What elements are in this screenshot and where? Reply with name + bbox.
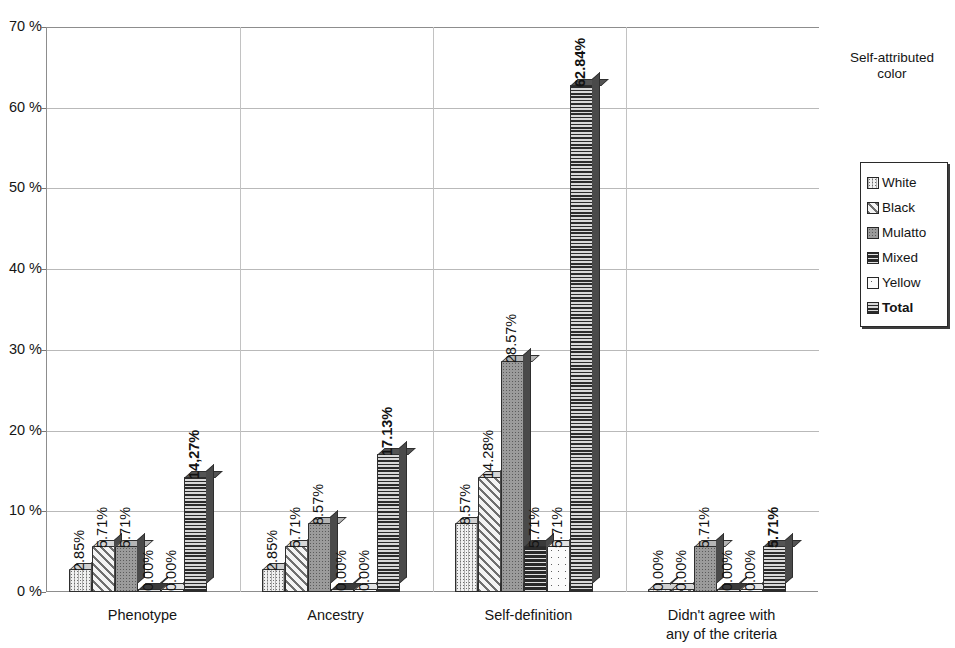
legend-item-label: Mulatto [882,225,926,240]
y-axis-tick-label: 0 % [0,584,42,598]
bar-value-label: 0.00% [357,549,371,590]
bar-value-label: 0.00% [720,549,734,590]
x-axis-category-label: Didn't agree withany of the criteria [625,606,818,644]
x-axis-category-label: Ancestry [239,606,432,625]
category-separator [626,27,627,592]
x-axis-category-label: Phenotype [46,606,239,625]
bar [524,546,547,592]
bar [763,546,786,592]
bar-side-face [399,441,407,584]
bar-value-label: 14,27% [187,430,201,479]
bar-value-label: 0.00% [651,549,665,590]
plot-area: 2.85%5.71%5.71%0.00%0.00%14,27%2.85%5.71… [46,27,818,592]
bar-value-label: 17.13% [380,407,394,456]
category-separator [433,27,434,592]
bar-value-label: 62.84% [573,38,587,87]
bar-value-label: 5.71% [766,507,780,548]
y-axis-tick-label: 10 % [0,503,42,517]
legend-item-mixed[interactable]: Mixed [867,245,947,270]
bar-side-face [592,72,600,584]
bar [308,523,331,592]
bar-value-label: 0.00% [164,549,178,590]
bar-value-label: 5.71% [697,507,711,548]
bar [184,477,207,592]
bar [262,569,285,592]
y-axis-tick-label: 50 % [0,180,42,194]
legend-item-label: Total [882,300,913,315]
bar-side-face [785,533,793,584]
bar [285,546,308,592]
bar-value-label: 8.57% [458,484,472,525]
legend-title: Self-attributed color [836,50,948,82]
legend-item-white[interactable]: White [867,170,947,195]
bar-value-label: 0.00% [674,549,688,590]
bar [455,523,478,592]
legend-item-yellow[interactable]: Yellow [867,270,947,295]
legend-swatch-icon [867,202,879,214]
legend-item-mulatto[interactable]: Mulatto [867,220,947,245]
legend-item-black[interactable]: Black [867,195,947,220]
legend: WhiteBlackMulattoMixedYellowTotal [860,162,948,327]
legend-swatch-icon [867,252,879,264]
bar-value-label: 0.00% [334,549,348,590]
bar [478,477,501,592]
bar [694,546,717,592]
bar-value-label: 5.71% [118,507,132,548]
bar [547,546,570,592]
bar-side-face [206,464,214,584]
y-axis-tick-label: 60 % [0,100,42,114]
category-separator [240,27,241,592]
y-axis-tick-label: 20 % [0,423,42,437]
bar [570,85,593,592]
bar [115,546,138,592]
legend-item-label: Yellow [882,275,921,290]
bar-value-label: 0.00% [141,549,155,590]
legend-item-label: Black [882,200,915,215]
legend-swatch-icon [867,177,879,189]
bar [92,546,115,592]
legend-swatch-icon [867,302,879,314]
y-axis-tick-label: 70 % [0,19,42,33]
bar [69,569,92,592]
bar-value-label: 2.85% [265,530,279,571]
legend-item-label: Mixed [882,250,918,265]
legend-item-total[interactable]: Total [867,295,947,320]
legend-swatch-icon [867,277,879,289]
bar [377,454,400,592]
bar-value-label: 8.57% [311,484,325,525]
legend-swatch-icon [867,227,879,239]
bar-value-label: 2.85% [72,530,86,571]
legend-item-label: White [882,175,917,190]
bar-value-label: 5.71% [527,507,541,548]
bar-value-label: 0.00% [743,549,757,590]
bar [501,361,524,592]
bar-value-label: 28.57% [504,314,518,363]
bar-value-label: 5.71% [288,507,302,548]
y-axis-tick-label: 30 % [0,342,42,356]
y-axis-tick-label: 40 % [0,261,42,275]
bar-value-label: 14.28% [481,430,495,479]
y-axis-tick-mark [41,592,46,593]
bar-value-label: 5.71% [95,507,109,548]
bar-value-label: 5.71% [550,507,564,548]
x-axis-category-label: Self-definition [432,606,625,625]
chart-page: 0 %10 %20 %30 %40 %50 %60 %70 % 2.85%5.7… [0,0,955,648]
